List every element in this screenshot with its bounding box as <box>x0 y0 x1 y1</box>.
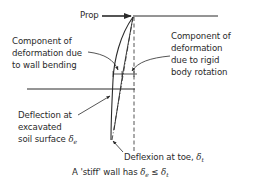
bending-label-1: Component of <box>12 36 72 47</box>
prop-label: Prop <box>80 10 99 21</box>
excavated-label-2: excavated <box>18 122 62 133</box>
leq-symbol: ≤ <box>149 167 161 177</box>
rigid-label-1: Component of <box>171 31 231 42</box>
rigid-label-4: body rotation <box>171 67 227 78</box>
delta-e-symbol: δe <box>68 134 77 144</box>
leader-bending <box>88 52 118 70</box>
excavated-label-3: soil surface δe <box>18 134 77 147</box>
caption: A 'stiff' wall has δe ≤ δt <box>72 167 168 180</box>
leader-toe <box>113 141 123 152</box>
caption-text: A 'stiff' wall has <box>72 167 140 177</box>
caption-delta-e: δe <box>140 167 149 177</box>
excavated-label-1: Deflection at <box>18 110 72 121</box>
rigid-label-2: deformation <box>171 43 222 54</box>
toe-label: Deflexion at toe, δt <box>124 152 204 165</box>
delta-t-symbol: δt <box>196 152 203 162</box>
rigid-label-3: due to rigid <box>171 55 219 66</box>
bending-label-2: deformation due <box>12 48 82 59</box>
excavated-label-text: soil surface <box>18 134 66 144</box>
leader-rigid <box>132 56 170 71</box>
caption-delta-t: δt <box>161 167 168 177</box>
bending-label-3: to wall bending <box>12 60 77 71</box>
leader-excavated <box>78 96 110 115</box>
toe-label-text: Deflexion at toe, <box>124 152 196 162</box>
